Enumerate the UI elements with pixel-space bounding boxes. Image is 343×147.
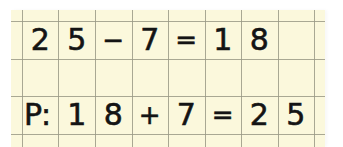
digit-cell: 7 xyxy=(132,21,169,59)
digit-cell: 2 xyxy=(241,96,278,134)
empty-cell xyxy=(278,21,315,59)
equation-check: P: 1 8 + 7 = 2 5 xyxy=(11,96,325,134)
digit-cell: 5 xyxy=(59,21,96,59)
digit-cell: 5 xyxy=(278,96,315,134)
plus-sign: + xyxy=(132,96,169,134)
equation-subtraction: 2 5 − 7 = 1 8 xyxy=(11,21,325,59)
digit-cell: 7 xyxy=(168,96,205,134)
equals-sign: = xyxy=(168,21,205,59)
digit-cell: 1 xyxy=(59,96,96,134)
grid-line-horizontal xyxy=(11,59,325,60)
digit-cell: 8 xyxy=(241,21,278,59)
digit-cell: 1 xyxy=(205,21,242,59)
grid-paper: 2 5 − 7 = 1 8 P: 1 8 + 7 = 2 5 xyxy=(11,10,325,147)
minus-sign: − xyxy=(95,21,132,59)
digit-cell: 8 xyxy=(95,96,132,134)
equals-sign: = xyxy=(205,96,242,134)
digit-cell: 2 xyxy=(22,21,59,59)
grid-line-horizontal xyxy=(11,134,325,135)
check-label: P: xyxy=(22,96,61,134)
